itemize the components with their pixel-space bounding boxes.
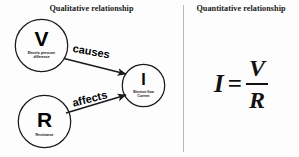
equation-fraction-bar <box>246 83 268 86</box>
concept-map-svg <box>0 0 183 157</box>
equation-fraction: V R <box>246 56 268 113</box>
node-circle-i <box>122 64 164 106</box>
equation-operator: = <box>228 70 242 98</box>
equation-lhs: I <box>214 70 224 98</box>
node-circle-v <box>15 19 67 71</box>
edge-arrow-causes <box>64 59 126 75</box>
node-circle-r <box>18 95 70 147</box>
quantitative-panel-title: Quantitative relationship <box>183 4 299 13</box>
edge-arrow-affects <box>66 95 126 113</box>
ohms-law-equation: I = V R <box>183 44 299 124</box>
ohms-law-diagram-figure: Qualitative relationship Quantitative re… <box>0 0 299 157</box>
equation-denominator: R <box>249 87 265 112</box>
equation-numerator: V <box>249 56 265 81</box>
